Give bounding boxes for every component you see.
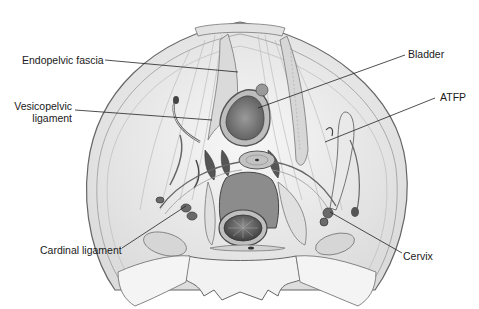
pelvis-illustration — [0, 0, 479, 309]
label-vesicopelvic-line2: ligament — [14, 112, 72, 124]
pelvic-anatomy-diagram: Endopelvic fascia Vesicopelvic ligament … — [0, 0, 479, 309]
cervix — [239, 151, 275, 169]
label-bladder: Bladder — [408, 48, 444, 60]
label-vesicopelvic-line1: Vesicopelvic — [14, 100, 72, 112]
label-endopelvic-fascia: Endopelvic fascia — [22, 54, 104, 66]
sacrum — [186, 256, 300, 300]
label-cardinal-ligament: Cardinal ligament — [40, 244, 122, 256]
label-cervix: Cervix — [403, 250, 433, 262]
label-atfp: ATFP — [440, 91, 466, 103]
